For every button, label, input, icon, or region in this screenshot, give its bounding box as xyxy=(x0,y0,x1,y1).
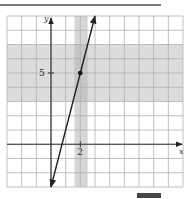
x-tick-label: 2 xyxy=(77,147,83,157)
highlighted-point xyxy=(78,71,83,76)
x-axis-label: x xyxy=(179,147,184,156)
y-axis-label: y xyxy=(43,14,49,23)
graph: 25xy xyxy=(0,0,191,199)
y-tick-label: 5 xyxy=(39,68,45,78)
bottom-bar xyxy=(137,193,161,198)
